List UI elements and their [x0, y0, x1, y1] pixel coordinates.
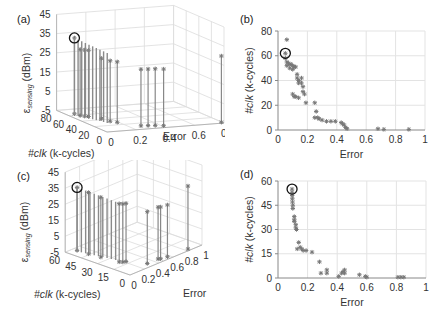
grid-line — [65, 160, 137, 172]
data-point — [345, 127, 349, 131]
stem-base — [158, 257, 162, 261]
panel-b: (b) 00.20.40.60.81020406080Error#clk (k-… — [225, 0, 445, 162]
y-tick-label: 0 — [119, 278, 125, 289]
chart-c: -551525354500.20.40.60.81015304560εsensi… — [0, 160, 225, 322]
chart-b: 00.20.40.60.81020406080Error#clk (k-cycl… — [225, 0, 445, 162]
y-axis-label: #clk (k-cycles) — [243, 47, 255, 114]
x-tick-label: 0.2 — [133, 135, 147, 146]
data-point — [342, 271, 346, 275]
y-tick-label: 15 — [98, 272, 110, 283]
z-tick-label: 25 — [48, 199, 60, 210]
x-tick-label: 0 — [108, 137, 114, 148]
z-tick-label: 35 — [48, 183, 60, 194]
y-tick-label: 20 — [78, 130, 90, 141]
panel-a: (a) -551525354500.20.40.60.8020406080εse… — [0, 0, 225, 162]
x-axis-label: Error — [183, 287, 207, 299]
x-tick-label: 0.8 — [389, 282, 403, 293]
stem-top — [219, 54, 223, 58]
x-tick-label: 0.4 — [330, 282, 344, 293]
data-point — [376, 127, 380, 131]
data-point — [295, 247, 299, 251]
x-tick-label: 0.6 — [170, 262, 184, 273]
data-point — [291, 67, 295, 71]
z-tick-label: 25 — [39, 47, 51, 58]
stem-base — [108, 119, 112, 123]
stem-base — [139, 124, 143, 128]
stem-base — [219, 120, 223, 124]
x-tick-label: 0.2 — [301, 282, 315, 293]
stem-base — [165, 255, 169, 259]
chart-a: -551525354500.20.40.60.8020406080εsensin… — [0, 0, 225, 162]
x-tick-label: 1 — [423, 282, 429, 293]
stem-top — [158, 205, 162, 209]
x-tick-label: 0.6 — [359, 134, 373, 145]
x-tick-label: 0 — [275, 134, 281, 145]
z-axis-label: εsensing (dBm) — [20, 53, 34, 113]
grid-line — [81, 228, 153, 258]
stem-base — [145, 261, 149, 265]
data-point — [320, 118, 324, 122]
stem-top — [153, 67, 157, 71]
data-point — [313, 101, 317, 105]
stem-top — [108, 59, 112, 63]
y-tick-label: 15 — [261, 248, 273, 259]
z-tick-label: 45 — [39, 9, 51, 20]
x-tick-label: 1 — [203, 250, 209, 261]
data-point — [283, 51, 287, 55]
y-tick-label: 0 — [266, 273, 272, 284]
y-tick-label: 60 — [49, 255, 61, 266]
stem-base — [124, 259, 128, 263]
y-tick-label: 30 — [261, 224, 273, 235]
y-tick-label: 80 — [261, 26, 273, 37]
data-point — [285, 37, 289, 41]
y-tick-label: 45 — [65, 261, 77, 272]
y-tick-label: 60 — [261, 50, 273, 61]
data-point — [301, 84, 305, 88]
data-point — [319, 271, 323, 275]
stem-base — [161, 123, 165, 127]
data-point — [382, 127, 386, 131]
z-tick-label: 5 — [45, 86, 51, 97]
stem-top — [165, 203, 169, 207]
y-tick-label: 40 — [261, 75, 273, 86]
x-tick-label: 0 — [275, 282, 281, 293]
x-axis-label: Error — [340, 296, 364, 308]
y-axis-label: #clk (k-cycles) — [34, 288, 101, 300]
stem-top — [186, 184, 190, 188]
y-tick-label: 60 — [261, 176, 273, 187]
y-tick-label: 40 — [66, 124, 78, 135]
x-axis-label: Error — [163, 130, 187, 142]
x-tick-label: 0.8 — [389, 134, 403, 145]
stem-top — [115, 60, 119, 64]
x-tick-label: 0.6 — [360, 282, 374, 293]
x-tick-label: 0.2 — [300, 134, 314, 145]
y-tick-label: 20 — [261, 100, 273, 111]
data-point — [402, 275, 406, 279]
stem-base — [153, 123, 157, 127]
stem-top — [124, 201, 128, 205]
y-tick-label: 30 — [81, 267, 93, 278]
x-tick-label: 0.4 — [156, 268, 170, 279]
stem-top — [161, 67, 165, 71]
x-axis-label: Error — [340, 148, 364, 160]
y-axis-label: #clk (k-cycles) — [243, 196, 255, 263]
y-axis-label: #clk (k-cycles) — [28, 147, 95, 159]
data-point — [297, 240, 301, 244]
y-tick-label: 45 — [261, 200, 273, 211]
data-point — [325, 271, 329, 275]
z-tick-label: 35 — [39, 28, 51, 39]
y-tick-label: 60 — [53, 119, 65, 130]
stem-base — [146, 123, 150, 127]
data-point — [296, 96, 300, 100]
stem-base — [186, 247, 190, 251]
z-tick-label: 15 — [39, 67, 51, 78]
x-tick-label: 1 — [422, 134, 428, 145]
data-point — [304, 248, 308, 252]
y-tick-label: 80 — [40, 113, 52, 124]
data-point — [304, 101, 308, 105]
x-tick-label: 0.8 — [185, 256, 199, 267]
data-point — [324, 119, 328, 123]
stem-top — [145, 209, 149, 213]
z-tick-label: 45 — [48, 167, 60, 178]
x-tick-label: 0 — [131, 280, 137, 291]
